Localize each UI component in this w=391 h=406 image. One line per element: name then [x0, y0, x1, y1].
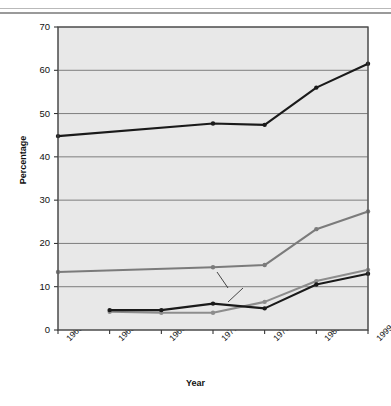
data-point: [211, 121, 215, 125]
plot-area: [0, 0, 391, 406]
plot-background: [58, 27, 368, 330]
data-point: [314, 282, 318, 286]
chart-figure: Percentage Year 010203040506070 1960–621…: [0, 0, 391, 406]
data-point: [314, 227, 318, 231]
data-point: [211, 310, 215, 314]
data-point: [262, 123, 266, 127]
data-point: [159, 308, 163, 312]
data-point: [107, 308, 111, 312]
data-point: [262, 306, 266, 310]
data-point: [262, 300, 266, 304]
data-point: [262, 263, 266, 267]
data-point: [211, 265, 215, 269]
data-point: [314, 85, 318, 89]
data-point: [211, 301, 215, 305]
